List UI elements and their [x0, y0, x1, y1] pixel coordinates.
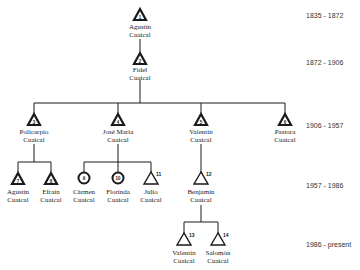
period-label: 1986 - present	[306, 241, 351, 248]
person-label-3: Policarpio Cuaical	[9, 128, 59, 144]
node-number: 10	[115, 176, 121, 181]
first-name: Pastora	[260, 128, 310, 136]
person-label-6: Pastora Cuaical	[260, 128, 310, 144]
first-name: Valentín	[176, 128, 226, 136]
period-label: 1872 - 1906	[306, 59, 343, 66]
first-name: Benjamín	[176, 188, 226, 196]
last-name: Cuaical	[176, 136, 226, 144]
last-name: Cuaical	[9, 136, 59, 144]
person-label-14: Salomón Cuaical	[193, 249, 243, 265]
last-name: Cuaical	[193, 257, 243, 265]
genealogy-diagram: 1 2 3 4 5 6 7 8 9 10 11 12 13 14 Agustín…	[0, 0, 360, 270]
first-name: Fidel	[115, 66, 165, 74]
person-label-5: Valentín Cuaical	[176, 128, 226, 144]
node-number: 14	[223, 232, 229, 238]
person-label-12: Benjamín Cuaical	[176, 188, 226, 204]
period-label: 1835 - 1872	[306, 12, 343, 19]
person-label-4: José María Cuaical	[93, 128, 143, 144]
last-name: Cuaical	[260, 136, 310, 144]
last-name: Cuaical	[115, 31, 165, 39]
last-name: Cuaical	[176, 196, 226, 204]
node-number: 11	[156, 171, 162, 177]
triangle-open-icon	[144, 172, 225, 245]
first-name: José María	[93, 128, 143, 136]
person-label-2: Fidel Cuaical	[115, 66, 165, 82]
last-name: Cuaical	[93, 136, 143, 144]
period-label: 1906 - 1957	[306, 122, 343, 129]
person-label-1: Agustín Cuaical	[115, 23, 165, 39]
first-name: Julio	[126, 188, 176, 196]
period-label: 1957 - 1986	[306, 182, 343, 189]
last-name: Cuaical	[115, 74, 165, 82]
last-name: Cuaical	[126, 196, 176, 204]
first-name: Agustín	[115, 23, 165, 31]
first-name: Policarpio	[9, 128, 59, 136]
node-number: 13	[189, 232, 195, 238]
first-name: Salomón	[193, 249, 243, 257]
person-label-11: Julio Cuaical	[126, 188, 176, 204]
node-number: 12	[206, 171, 212, 177]
